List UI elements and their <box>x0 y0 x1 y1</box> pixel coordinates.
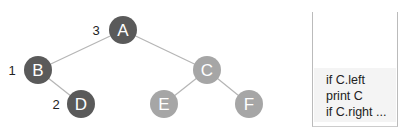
tree-node-f: F <box>235 90 263 118</box>
code-lines: if C.left print C if C.right ... <box>326 72 386 120</box>
code-line: if C.left <box>326 72 386 88</box>
code-line: if C.right ... <box>326 104 386 120</box>
tree-node-c: C <box>193 56 221 84</box>
visit-order-label: 3 <box>92 23 99 38</box>
visit-order-label: 1 <box>8 63 15 78</box>
visit-order-label: 2 <box>52 97 59 112</box>
node-label: B <box>32 61 43 80</box>
node-label: D <box>75 95 87 114</box>
node-label: A <box>117 21 129 40</box>
node-label: F <box>244 95 254 114</box>
binary-tree: A 3 B 1 C D 2 E F <box>0 0 300 139</box>
node-label: E <box>158 95 169 114</box>
tree-node-e: E <box>150 90 178 118</box>
node-label: C <box>201 61 213 80</box>
code-line: print C <box>326 88 386 104</box>
tree-node-d: D 2 <box>52 90 95 118</box>
tree-node-a: A 3 <box>92 16 137 44</box>
tree-node-b: B 1 <box>8 56 52 84</box>
edge-a-b <box>38 30 123 70</box>
